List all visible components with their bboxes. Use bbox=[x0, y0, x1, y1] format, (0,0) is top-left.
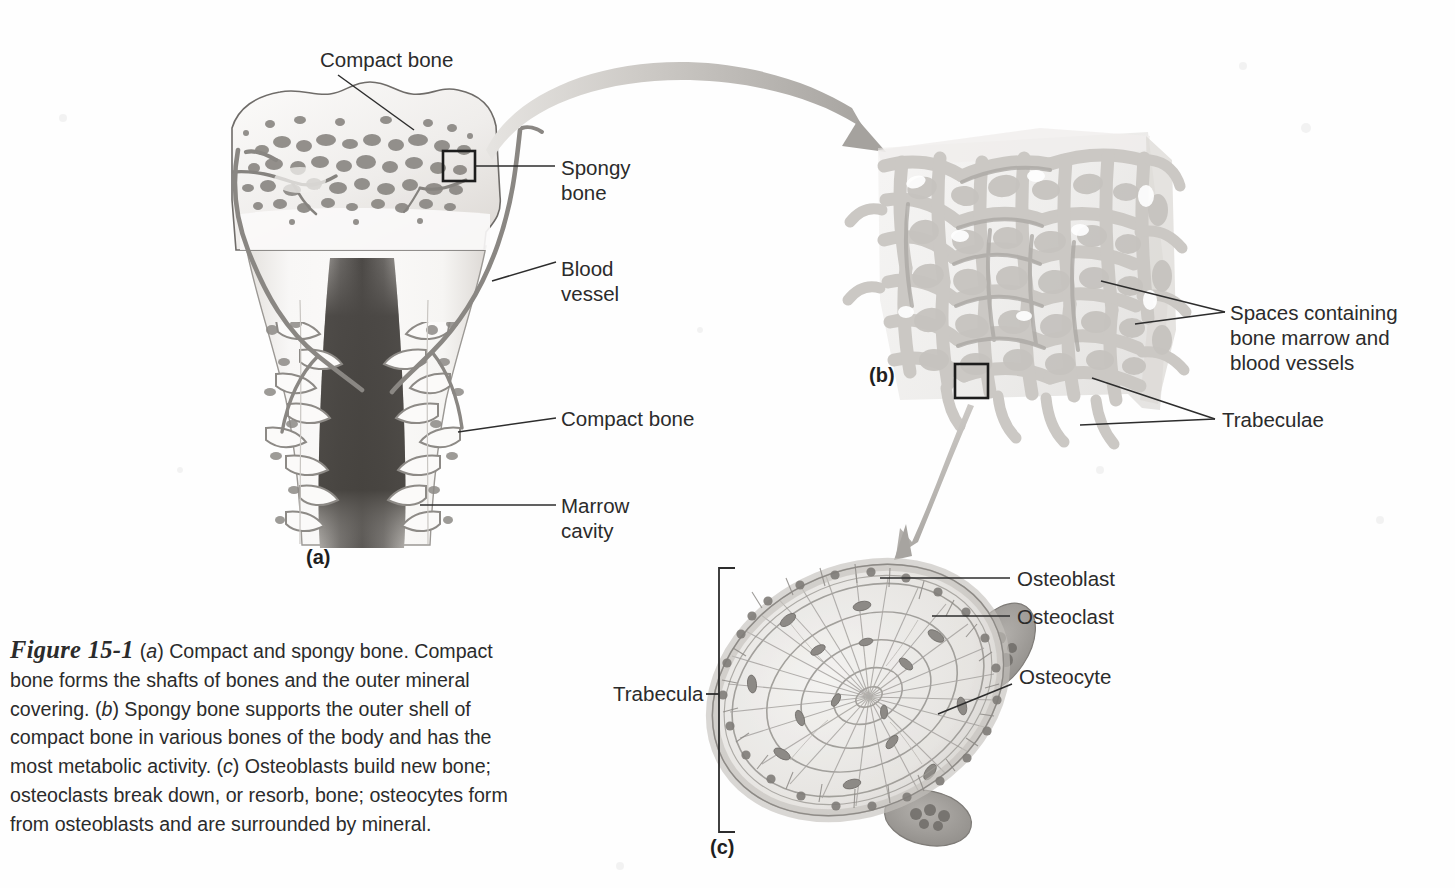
label-marrow-cavity: Marrow cavity bbox=[561, 493, 629, 543]
label-spongy-bone: Spongy bone bbox=[561, 155, 631, 205]
caption-ref-b: b bbox=[101, 698, 112, 720]
figure-page: Compact bone Spongy bone Blood vessel Co… bbox=[0, 0, 1455, 888]
label-osteoclast: Osteoclast bbox=[1017, 604, 1114, 629]
arrow-b-to-c bbox=[894, 404, 974, 560]
label-compact-bone-top: Compact bone bbox=[320, 47, 453, 72]
growth-plate-band bbox=[240, 208, 490, 250]
label-trabeculae: Trabeculae bbox=[1222, 407, 1324, 432]
label-spaces-containing-marrow: Spaces containing bone marrow and blood … bbox=[1230, 300, 1398, 375]
panel-tag-a: (a) bbox=[306, 546, 330, 569]
panel-tag-b: (b) bbox=[869, 364, 895, 387]
figure-caption: Figure 15-1(a) Compact and spongy bone. … bbox=[10, 636, 515, 839]
marrow-cavity-shading bbox=[319, 258, 406, 548]
panel-tag-c: (c) bbox=[710, 836, 734, 859]
panel-b-spongy-block bbox=[848, 128, 1225, 444]
label-blood-vessel: Blood vessel bbox=[561, 256, 619, 306]
leader-blood-vessel bbox=[492, 262, 556, 281]
arrow-a-to-b bbox=[486, 62, 886, 160]
label-compact-bone-shaft: Compact bone bbox=[561, 406, 694, 431]
panel-a-long-bone bbox=[232, 75, 556, 548]
panel-c-trabecula bbox=[669, 516, 1051, 864]
figure-number: Figure 15-1 bbox=[10, 636, 140, 663]
label-osteoblast: Osteoblast bbox=[1017, 566, 1115, 591]
label-osteocyte: Osteocyte bbox=[1019, 664, 1111, 689]
label-trabecula: Trabecula bbox=[613, 681, 703, 706]
caption-ref-a: a bbox=[146, 640, 157, 662]
caption-ref-c: c bbox=[223, 755, 233, 777]
leader-compact-bone-shaft bbox=[458, 418, 556, 432]
